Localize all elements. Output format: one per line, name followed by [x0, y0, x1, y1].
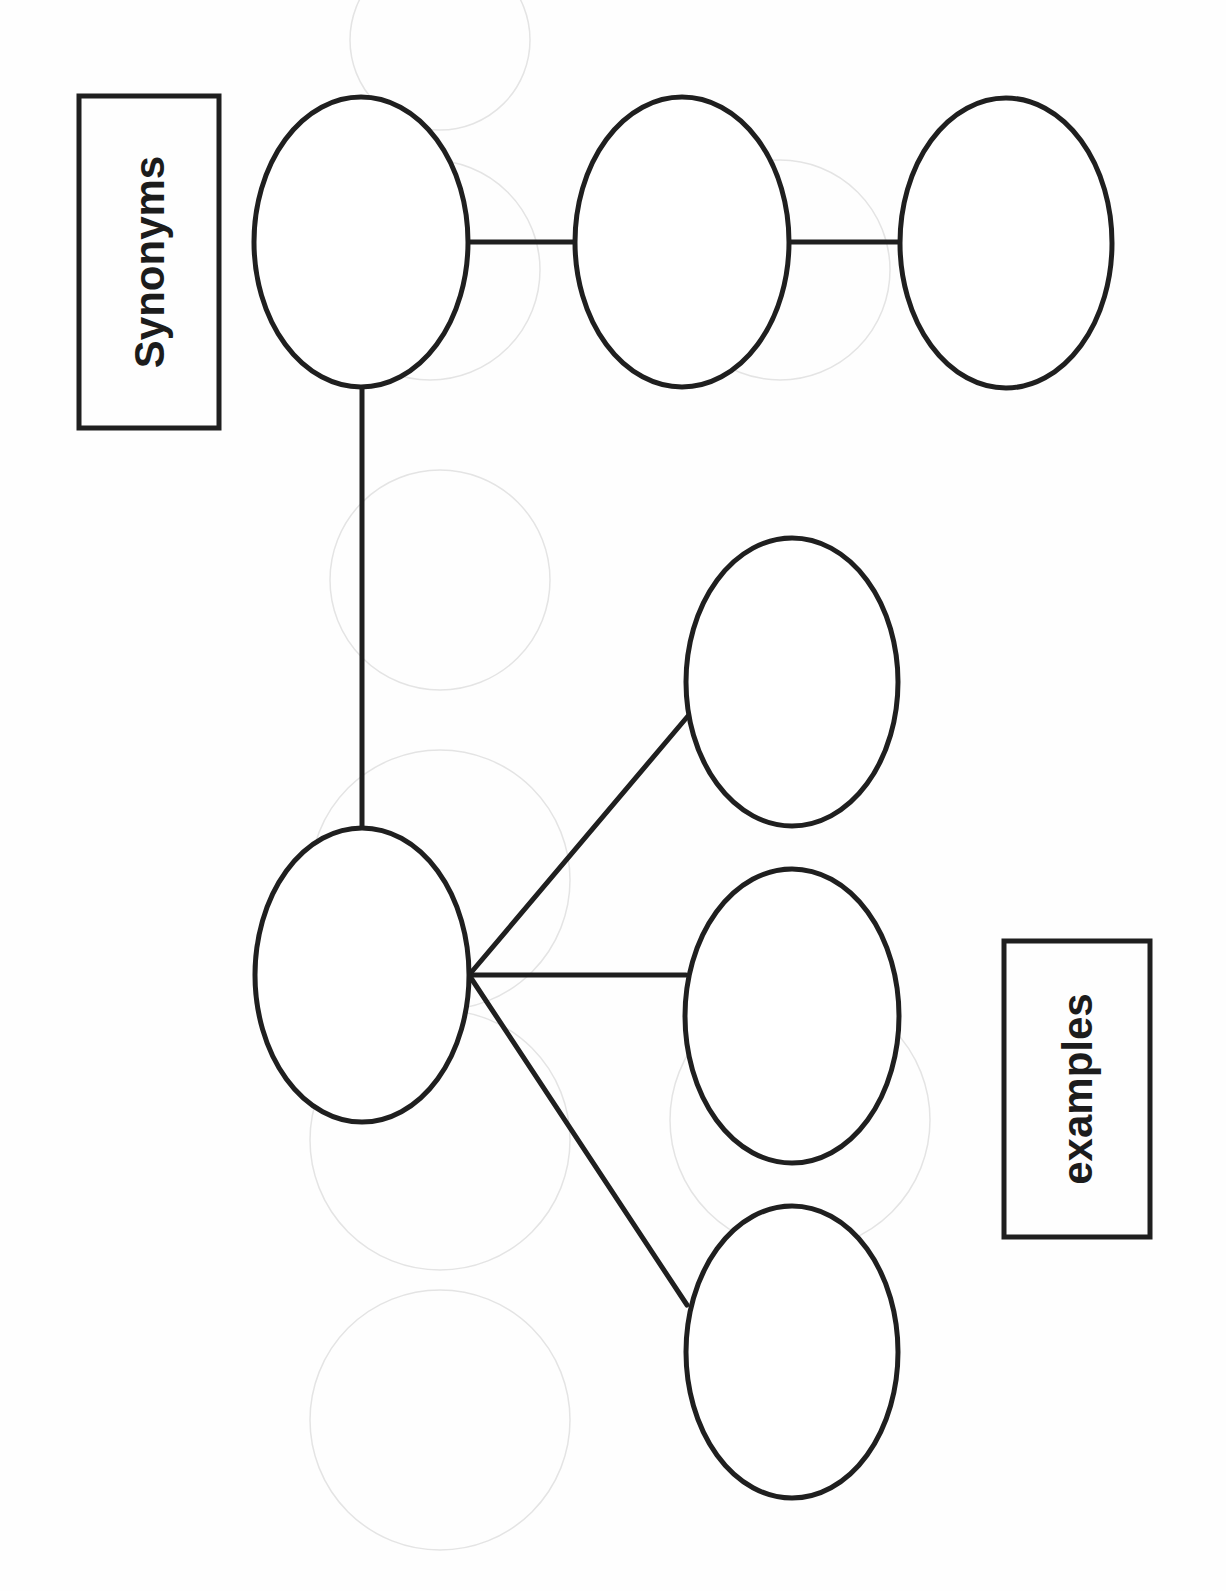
examples-label-text: examples — [1054, 993, 1101, 1184]
node-synonym-2[interactable] — [575, 97, 789, 387]
ellipse-synonym-root[interactable] — [254, 97, 468, 387]
node-synonym-root[interactable] — [254, 97, 468, 387]
ellipse-nodes — [254, 97, 1112, 1498]
node-example-1[interactable] — [686, 538, 898, 826]
node-synonym-3[interactable] — [900, 98, 1112, 388]
ellipse-synonym-2[interactable] — [575, 97, 789, 387]
graphic-organizer-page: Synonyms examples — [0, 0, 1226, 1591]
diagram-canvas: Synonyms examples — [0, 0, 1226, 1591]
ellipse-example-2[interactable] — [685, 869, 899, 1163]
node-example-3[interactable] — [686, 1206, 898, 1498]
connector-example-root-to-example-3 — [469, 975, 687, 1305]
examples-label: examples — [1004, 941, 1150, 1237]
node-example-2[interactable] — [685, 869, 899, 1163]
synonyms-label-text: Synonyms — [126, 156, 173, 368]
synonyms-label: Synonyms — [79, 96, 219, 428]
ellipse-example-root[interactable] — [255, 828, 469, 1122]
node-example-root[interactable] — [255, 828, 469, 1122]
bleed-through-circle — [310, 1290, 570, 1550]
connector-example-root-to-example-1 — [469, 716, 688, 975]
ellipse-example-3[interactable] — [686, 1206, 898, 1498]
ellipse-synonym-3[interactable] — [900, 98, 1112, 388]
ellipse-example-1[interactable] — [686, 538, 898, 826]
